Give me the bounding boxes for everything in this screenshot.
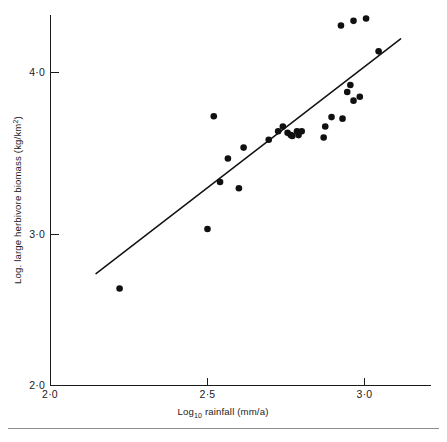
- data-point: [295, 132, 302, 139]
- data-point: [217, 179, 224, 186]
- data-point: [339, 115, 346, 122]
- y-axis-title-close: ): [12, 116, 23, 119]
- data-point: [320, 134, 327, 141]
- x-axis-title-sub: 10: [194, 412, 202, 420]
- data-point: [225, 155, 232, 162]
- y-tick-label-4: 4·0: [29, 66, 45, 78]
- x-axis-title: Log10 rainfall (mm/a): [177, 406, 268, 420]
- y-axis-ticks: [51, 73, 59, 235]
- data-points-layer: [116, 15, 382, 292]
- x-axis-ticks: [208, 378, 365, 386]
- data-point: [375, 48, 382, 55]
- regression-line: [96, 39, 401, 274]
- data-point: [347, 82, 354, 89]
- data-point: [338, 22, 345, 29]
- scatter-plot: 4·0 3·0 2·0 2·0 2·5 3·0 Log10 rainfall (…: [0, 0, 447, 442]
- data-point: [363, 15, 370, 22]
- data-point: [356, 93, 363, 100]
- y-axis-title: Log. large herbivore biomass (kg/km2): [12, 116, 23, 284]
- data-point: [275, 128, 282, 135]
- data-point: [350, 18, 357, 25]
- data-point: [265, 137, 272, 144]
- data-point: [322, 123, 329, 130]
- axes-frame: [51, 15, 432, 386]
- data-point: [240, 144, 247, 151]
- y-axis-title-main: Log. large herbivore biomass (kg/km: [12, 124, 23, 284]
- data-point: [204, 226, 211, 233]
- data-point: [350, 97, 357, 104]
- figure-container: 4·0 3·0 2·0 2·0 2·5 3·0 Log10 rainfall (…: [0, 0, 447, 442]
- y-tick-label-3: 3·0: [29, 228, 45, 240]
- data-point: [236, 185, 243, 192]
- x-axis-title-rest: rainfall (mm/a): [202, 406, 268, 417]
- data-point: [289, 133, 296, 140]
- x-axis-title-main: Log: [177, 406, 193, 417]
- x-tick-label-3: 3·0: [357, 388, 373, 400]
- data-point: [116, 285, 123, 292]
- x-tick-label-2: 2·0: [42, 388, 58, 400]
- data-point: [328, 114, 335, 121]
- data-point: [280, 123, 287, 130]
- data-point: [344, 89, 351, 96]
- x-tick-label-2.5: 2·5: [200, 388, 216, 400]
- data-point: [210, 113, 217, 120]
